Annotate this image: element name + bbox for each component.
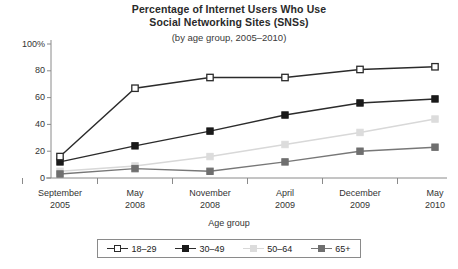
- data-point-marker: [132, 165, 138, 171]
- legend-item-5064[interactable]: 50–64: [243, 244, 292, 254]
- chart-figure: Percentage of Internet Users Who Use Soc…: [0, 0, 458, 269]
- series-1829: [57, 64, 438, 160]
- legend-swatch-icon: [175, 244, 196, 253]
- data-point-marker: [357, 66, 363, 72]
- data-point-marker: [207, 153, 213, 159]
- data-point-marker: [207, 74, 213, 80]
- legend-item-65+[interactable]: 65+: [311, 244, 350, 254]
- data-point-marker: [357, 148, 363, 154]
- data-point-marker: [207, 168, 213, 174]
- y-axis-tick-label: 100%: [1, 40, 45, 49]
- data-point-marker: [57, 153, 63, 159]
- x-axis-tick-label: November2008: [167, 188, 253, 211]
- data-point-marker: [357, 100, 363, 106]
- series-65+: [57, 144, 438, 177]
- y-axis-tick-label: 80: [1, 66, 45, 75]
- data-point-marker: [132, 85, 138, 91]
- legend-item-1829[interactable]: 18–29: [107, 244, 156, 254]
- legend-label: 65+: [335, 244, 350, 254]
- data-point-marker: [432, 144, 438, 150]
- data-point-marker: [432, 96, 438, 102]
- legend-label: 18–29: [131, 244, 156, 254]
- data-point-marker: [132, 143, 138, 149]
- y-axis-tick-label: 20: [1, 147, 45, 156]
- data-point-marker: [282, 141, 288, 147]
- series-line: [60, 119, 435, 171]
- legend-swatch-icon: [107, 244, 128, 253]
- y-axis-tick-label: 0: [1, 174, 45, 183]
- data-point-marker: [282, 159, 288, 165]
- series-line: [60, 67, 435, 157]
- series-5064: [57, 116, 438, 175]
- legend-item-3049[interactable]: 30–49: [175, 244, 224, 254]
- series-line: [60, 99, 435, 162]
- legend-swatch-icon: [311, 244, 332, 253]
- x-axis-tick-label: December2009: [317, 188, 403, 211]
- data-point-marker: [282, 112, 288, 118]
- chart-canvas: [0, 0, 458, 269]
- y-axis-tick-label: 60: [1, 93, 45, 102]
- x-axis-label: Age group: [0, 218, 458, 228]
- x-axis-tick-label: September2005: [17, 188, 103, 211]
- legend-swatch-icon: [243, 244, 264, 253]
- series-3049: [57, 96, 438, 165]
- x-axis-tick-label: May2008: [92, 188, 178, 211]
- legend-label: 30–49: [199, 244, 224, 254]
- x-axis-tick-label: April2009: [242, 188, 328, 211]
- plot-area: 020406080100% September2005May2008Novemb…: [0, 0, 458, 269]
- data-point-marker: [432, 64, 438, 70]
- data-point-marker: [57, 171, 63, 177]
- legend-label: 50–64: [267, 244, 292, 254]
- data-point-marker: [357, 129, 363, 135]
- data-point-marker: [282, 74, 288, 80]
- chart-legend: 18–2930–4950–6465+: [97, 239, 361, 258]
- x-axis-tick-label: May2010: [392, 188, 458, 211]
- y-axis-tick-label: 40: [1, 120, 45, 129]
- data-point-marker: [432, 116, 438, 122]
- data-point-marker: [207, 128, 213, 134]
